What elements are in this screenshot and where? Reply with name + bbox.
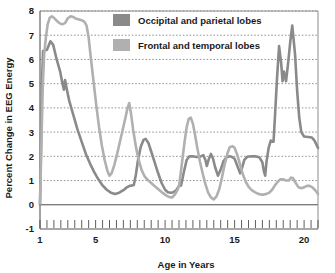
y-tick-label: 7 <box>29 30 34 41</box>
y-tick-label: -1 <box>26 223 35 234</box>
y-tick-label: 8 <box>29 5 34 16</box>
y-tick-label: 2 <box>29 151 34 162</box>
x-tick-label: 10 <box>160 234 171 245</box>
x-tick-label: 1 <box>37 234 43 245</box>
eeg-energy-line-chart: -1012345678 15101520 Occipital and parie… <box>0 0 335 273</box>
y-tick-label: 0 <box>29 199 34 210</box>
y-tick-label: 3 <box>29 127 34 138</box>
legend-label: Occipital and parietal lobes <box>138 15 262 26</box>
y-tick-label: 4 <box>29 102 35 113</box>
y-tick-label: 5 <box>29 78 35 89</box>
y-tick-label: 6 <box>29 54 34 65</box>
y-axis-label: Percent Change in EEG Energy <box>3 57 14 199</box>
legend-label: Frontal and temporal lobes <box>138 40 260 51</box>
y-tick-label: 1 <box>29 175 35 186</box>
legend-swatch <box>113 39 130 51</box>
x-tick-label: 5 <box>93 234 99 245</box>
chart-figure: -1012345678 15101520 Occipital and parie… <box>0 0 335 273</box>
x-tick-label: 15 <box>229 234 240 245</box>
x-axis-label: Age in Years <box>158 259 215 270</box>
legend-swatch <box>113 14 130 26</box>
x-tick-label: 20 <box>299 234 310 245</box>
